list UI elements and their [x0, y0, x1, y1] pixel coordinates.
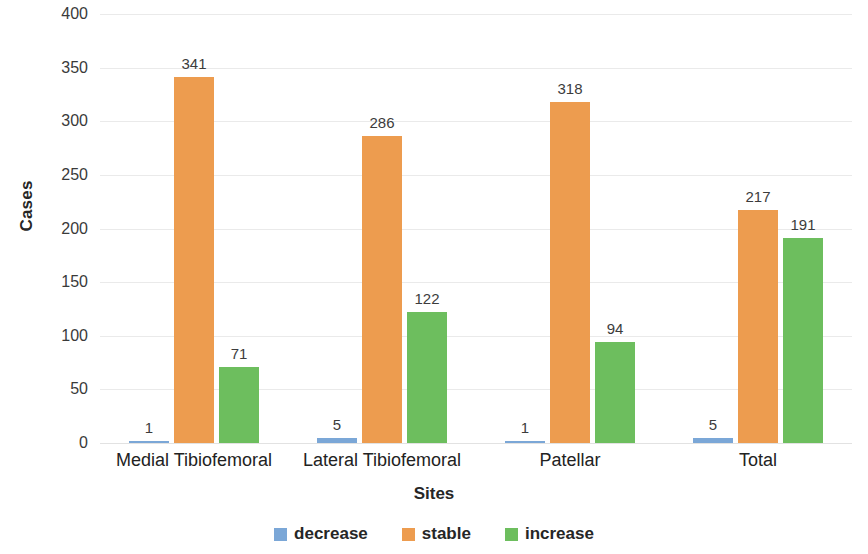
legend-label: decrease — [294, 524, 368, 544]
x-axis-title: Sites — [0, 484, 868, 504]
bar-group: 5217191 — [664, 14, 852, 443]
legend-item-increase[interactable]: increase — [505, 524, 594, 544]
bar-decrease[interactable]: 5 — [317, 14, 357, 443]
legend-item-stable[interactable]: stable — [402, 524, 471, 544]
bar-group: 134171 — [100, 14, 288, 443]
bar-rect[interactable] — [505, 441, 545, 443]
x-axis-tick-label: Lateral Tibiofemoral — [303, 450, 461, 471]
bar-value-label: 217 — [745, 188, 770, 205]
y-axis-tick-label: 350 — [28, 59, 88, 77]
bar-decrease[interactable]: 5 — [693, 14, 733, 443]
bar-rect[interactable] — [362, 136, 402, 443]
y-axis-tick-label: 200 — [28, 220, 88, 238]
bar-decrease[interactable]: 1 — [129, 14, 169, 443]
bar-rect[interactable] — [219, 367, 259, 443]
gridline — [100, 443, 852, 444]
legend-swatch-icon — [274, 528, 287, 541]
bar-group: 5286122 — [288, 14, 476, 443]
bar-increase[interactable]: 71 — [219, 14, 259, 443]
y-axis-tick-label: 400 — [28, 5, 88, 23]
bar-chart: Cases 400350300250200150100500 134171528… — [0, 0, 868, 554]
legend-item-decrease[interactable]: decrease — [274, 524, 368, 544]
bar-value-label: 1 — [521, 419, 529, 436]
bar-stable[interactable]: 318 — [550, 14, 590, 443]
bar-rect[interactable] — [550, 102, 590, 443]
x-axis-tick-label: Medial Tibiofemoral — [116, 450, 272, 471]
bar-group: 131894 — [476, 14, 664, 443]
bar-rect[interactable] — [174, 77, 214, 443]
bar-value-label: 5 — [333, 416, 341, 433]
bar-value-label: 1 — [145, 419, 153, 436]
y-axis-tick-label: 0 — [28, 434, 88, 452]
bar-decrease[interactable]: 1 — [505, 14, 545, 443]
bar-rect[interactable] — [693, 438, 733, 443]
x-axis-category-labels: Medial TibiofemoralLateral TibiofemoralP… — [100, 450, 852, 476]
plot-area: 13417152861221318945217191 — [100, 14, 852, 443]
bars-layer: 13417152861221318945217191 — [100, 14, 852, 443]
bar-value-label: 341 — [181, 55, 206, 72]
x-axis-tick-label: Patellar — [539, 450, 600, 471]
y-axis-tick-label: 150 — [28, 273, 88, 291]
bar-value-label: 5 — [709, 416, 717, 433]
bar-stable[interactable]: 341 — [174, 14, 214, 443]
bar-value-label: 71 — [231, 345, 248, 362]
y-axis-tick-label: 100 — [28, 327, 88, 345]
x-axis-tick-label: Total — [739, 450, 777, 471]
chart-legend: decreasestableincrease — [0, 524, 868, 544]
bar-rect[interactable] — [129, 441, 169, 443]
bar-value-label: 318 — [557, 80, 582, 97]
y-axis-tick-label: 300 — [28, 112, 88, 130]
legend-swatch-icon — [505, 528, 518, 541]
bar-value-label: 94 — [607, 320, 624, 337]
bar-rect[interactable] — [595, 342, 635, 443]
bar-rect[interactable] — [317, 438, 357, 443]
legend-swatch-icon — [402, 528, 415, 541]
y-axis-tick-labels: 400350300250200150100500 — [20, 14, 88, 443]
bar-increase[interactable]: 122 — [407, 14, 447, 443]
legend-label: stable — [422, 524, 471, 544]
bar-increase[interactable]: 191 — [783, 14, 823, 443]
bar-value-label: 191 — [790, 216, 815, 233]
bar-rect[interactable] — [738, 210, 778, 443]
y-axis-tick-label: 250 — [28, 166, 88, 184]
legend-label: increase — [525, 524, 594, 544]
bar-stable[interactable]: 286 — [362, 14, 402, 443]
bar-rect[interactable] — [407, 312, 447, 443]
bar-stable[interactable]: 217 — [738, 14, 778, 443]
bar-value-label: 122 — [414, 290, 439, 307]
bar-rect[interactable] — [783, 238, 823, 443]
y-axis-tick-label: 50 — [28, 380, 88, 398]
bar-value-label: 286 — [369, 114, 394, 131]
bar-increase[interactable]: 94 — [595, 14, 635, 443]
